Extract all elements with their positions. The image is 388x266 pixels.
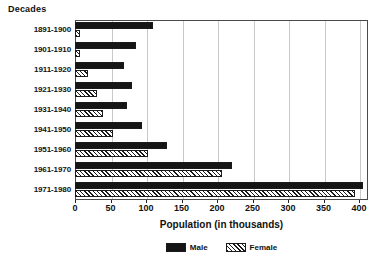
table-row <box>75 181 368 201</box>
x-axis-tick-label: 300 <box>280 203 295 213</box>
table-row <box>75 21 368 41</box>
y-axis-tick-label: 1971-1980 <box>3 185 71 194</box>
table-row <box>75 61 368 81</box>
y-axis-tick-label: 1911-1920 <box>3 65 71 74</box>
y-axis-tick-label: 1891-1900 <box>3 25 71 34</box>
x-axis-title: Population (in thousands) <box>75 219 368 230</box>
bar-rows <box>75 20 368 200</box>
x-axis-tick-label: 200 <box>209 203 224 213</box>
y-axis-tick-label: 1951-1960 <box>3 145 71 154</box>
x-axis-tick-label: 50 <box>105 203 115 213</box>
table-row <box>75 101 368 121</box>
legend-swatch-female <box>226 243 246 252</box>
x-axis-tick-label: 400 <box>351 203 366 213</box>
bar-male <box>75 142 167 149</box>
y-axis-tick-label: 1941-1950 <box>3 125 71 134</box>
bar-female <box>75 110 103 117</box>
bar-male <box>75 62 124 69</box>
x-axis-tick-label: 0 <box>72 203 77 213</box>
y-axis-tick-label: 1901-1910 <box>3 45 71 54</box>
bar-female <box>75 90 97 97</box>
bar-male <box>75 162 232 169</box>
y-axis-tick-labels: 1891-19001901-19101911-19201921-19301931… <box>0 20 71 200</box>
bar-female <box>75 50 80 57</box>
bar-female <box>75 170 222 177</box>
table-row <box>75 141 368 161</box>
table-row <box>75 121 368 141</box>
table-row <box>75 161 368 181</box>
bar-female <box>75 150 148 157</box>
population-by-decade-bar-chart: Decades 1891-19001901-19101911-19201921-… <box>0 0 388 266</box>
y-axis-title: Decades <box>8 4 46 14</box>
y-axis-tick-label: 1961-1970 <box>3 165 71 174</box>
x-axis-tick-label: 100 <box>138 203 153 213</box>
table-row <box>75 81 368 101</box>
legend-item-female: Female <box>226 243 278 252</box>
x-axis-tick-label: 350 <box>316 203 331 213</box>
bar-male <box>75 122 142 129</box>
y-axis-tick-label: 1931-1940 <box>3 105 71 114</box>
bar-female <box>75 30 80 37</box>
bar-male <box>75 22 153 29</box>
bar-female <box>75 130 113 137</box>
table-row <box>75 41 368 61</box>
x-axis-tick-label: 250 <box>245 203 260 213</box>
y-axis-tick-label: 1921-1930 <box>3 85 71 94</box>
bar-female <box>75 190 355 197</box>
legend-label: Female <box>250 243 278 252</box>
bar-male <box>75 82 132 89</box>
legend-item-male: Male <box>166 243 208 252</box>
bar-female <box>75 70 88 77</box>
bar-male <box>75 42 136 49</box>
x-axis-tick-label: 150 <box>174 203 189 213</box>
bar-male <box>75 182 363 189</box>
x-axis-ticks: 050100150200250300350400 <box>75 200 368 216</box>
bar-male <box>75 102 127 109</box>
legend-swatch-male <box>166 243 186 252</box>
chart-legend: MaleFemale <box>75 243 368 252</box>
legend-label: Male <box>190 243 208 252</box>
